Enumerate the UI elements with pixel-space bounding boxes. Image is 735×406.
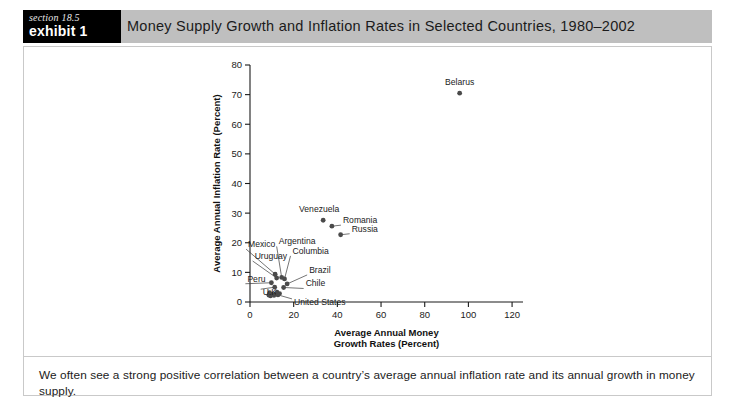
- y-tick-label: 70: [231, 89, 242, 100]
- data-point-label: United States: [294, 297, 346, 307]
- y-tick-label: 60: [231, 119, 242, 130]
- data-point: [281, 285, 286, 290]
- x-tick-label: 60: [376, 309, 387, 320]
- data-point: [269, 280, 274, 285]
- y-axis-title: Average Annual Inflation Rate (Percent): [211, 94, 222, 272]
- y-tick-label: 50: [231, 148, 242, 159]
- data-point-label: Venezuela: [299, 204, 339, 214]
- data-point-label: Mexico: [248, 239, 275, 249]
- data-point: [457, 91, 462, 96]
- data-point: [321, 218, 326, 223]
- x-tick-label: 100: [460, 309, 476, 320]
- data-point-label: Peru: [247, 274, 265, 284]
- data-point-label: Columbia: [293, 246, 330, 256]
- data-point-label: Russia: [352, 224, 378, 234]
- data-point: [274, 276, 279, 281]
- x-tick-label: 20: [288, 309, 299, 320]
- y-tick-label: 10: [231, 267, 242, 278]
- exhibit-caption: We often see a strong positive correlati…: [39, 368, 699, 399]
- x-tick-label: 0: [247, 309, 252, 320]
- data-point-label: Uruguay: [255, 251, 288, 261]
- exhibit-page: section 18.5 exhibit 1 Money Supply Grow…: [0, 0, 735, 406]
- y-tick-label: 40: [231, 178, 242, 189]
- badge-exhibit-label: exhibit 1: [29, 23, 121, 39]
- badge-section-label: section 18.5: [29, 12, 121, 23]
- x-axis-title: Average Annual Money: [334, 327, 439, 338]
- y-tick-label: 30: [231, 208, 242, 219]
- y-tick-label: 0: [237, 296, 242, 307]
- data-point: [338, 232, 343, 237]
- x-tick-label: 40: [332, 309, 343, 320]
- x-axis-title-line2: Growth Rates (Percent): [334, 338, 440, 349]
- chart-axes: [250, 65, 523, 302]
- data-point-label: Chile: [306, 278, 326, 288]
- x-tick-label: 80: [419, 309, 430, 320]
- data-point: [276, 292, 281, 297]
- exhibit-badge: section 18.5 exhibit 1: [23, 10, 121, 43]
- data-point-label: Brazil: [309, 265, 331, 275]
- data-point: [285, 282, 290, 287]
- data-point: [282, 276, 287, 281]
- scatter-chart: 01020304050607080020406080100120Average …: [195, 55, 535, 360]
- y-tick-label: 20: [231, 237, 242, 248]
- y-tick-label: 80: [231, 59, 242, 70]
- exhibit-title: Money Supply Growth and Inflation Rates …: [127, 18, 635, 34]
- data-point-label: Belarus: [445, 77, 474, 87]
- data-point: [330, 224, 335, 229]
- x-tick-label: 120: [504, 309, 520, 320]
